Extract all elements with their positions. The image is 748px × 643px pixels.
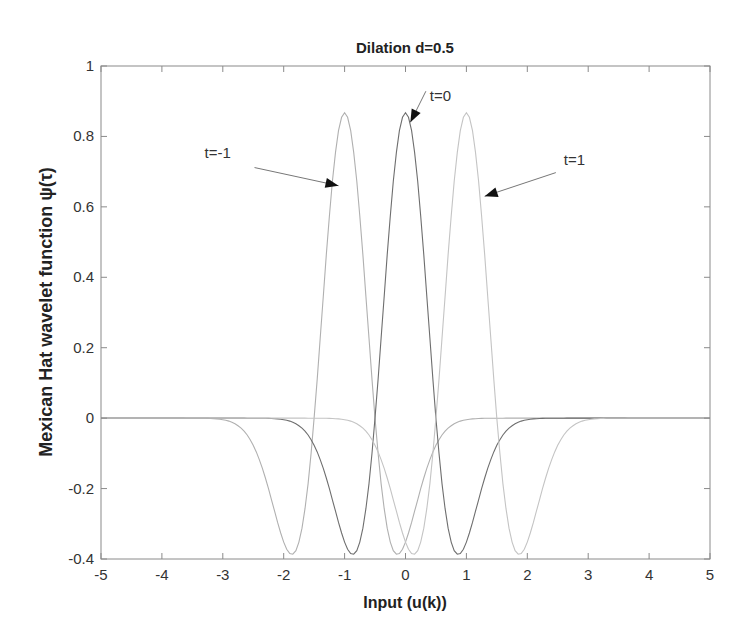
annotation-label: t=1 [564,151,585,168]
y-tick-label: 0.8 [73,127,94,144]
y-tick-label: 1 [86,57,94,74]
wavelet-chart: Dilation d=0.5 -5-4-3-2-1012345-0.4-0.20… [0,0,748,643]
axes-box [101,66,710,559]
series-line-tneg1 [101,113,710,555]
y-tick-label: 0 [86,409,94,426]
y-tick-label: 0.2 [73,339,94,356]
arrowhead-icon [485,187,499,196]
axis-ticks: -5-4-3-2-1012345-0.4-0.200.20.40.60.81 [68,57,714,583]
annotation-label: t=0 [430,87,451,104]
chart-title: Dilation d=0.5 [356,39,454,56]
x-tick-label: -1 [338,566,351,583]
x-tick-label: 3 [584,566,592,583]
y-tick-label: -0.2 [68,480,94,497]
y-axis-label: Mexican Hat wavelet function ψ(τ) [36,167,56,457]
x-tick-label: 1 [462,566,470,583]
series-line-t0 [101,113,710,555]
y-tick-label: 0.4 [73,268,94,285]
arrowhead-icon [325,178,339,188]
x-tick-label: -4 [155,566,168,583]
arrowhead-icon [410,108,420,122]
x-axis-label: Input (u(k)) [363,594,447,611]
plot-area [101,113,710,555]
x-tick-label: 4 [645,566,653,583]
x-tick-label: 5 [706,566,714,583]
annotations: t=-1t=0t=1 [205,87,586,197]
x-tick-label: -3 [216,566,229,583]
y-tick-label: 0.6 [73,198,94,215]
y-tick-label: -0.4 [68,550,94,567]
annotation-label: t=-1 [205,144,231,161]
x-tick-label: 0 [401,566,409,583]
series-line-t1 [101,113,710,555]
x-tick-label: 2 [523,566,531,583]
x-tick-label: -5 [94,566,107,583]
x-tick-label: -2 [277,566,290,583]
